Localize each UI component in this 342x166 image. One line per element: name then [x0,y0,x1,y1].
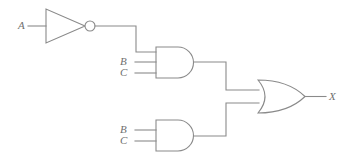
wire-and-top-to-or [194,62,259,90]
inverter-bubble [85,21,95,31]
label-input-a: A [18,20,25,31]
wire-inverter-to-and-top [95,26,156,52]
or-gate-body [258,80,305,113]
or-gate-output [258,80,305,113]
wire-and-bottom-to-or [194,103,259,136]
and-gate-bottom [135,120,193,151]
label-and-top-input-c: C [120,67,127,78]
label-and-bottom-input-c: C [120,135,127,146]
circuit-svg [0,0,342,166]
and-top-body [156,47,194,78]
inverter-triangle [46,9,85,43]
circuit-diagram-canvas: A B C B C X [0,0,342,166]
label-output-x: X [329,91,336,102]
and-bottom-body [156,120,193,151]
not-gate-inverter [28,9,95,43]
